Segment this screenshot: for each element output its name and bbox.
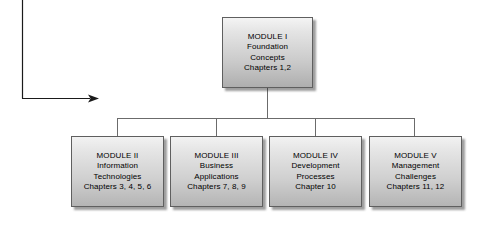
module-box-line-3: Concepts (250, 53, 285, 64)
module-box-line-2: Development (291, 161, 339, 172)
module-box-module-1[interactable]: MODULE I Foundation Concepts Chapters 1,… (222, 17, 313, 88)
module-box-line-chapters: Chapters 11, 12 (387, 182, 445, 193)
module-box-line-title: MODULE III (194, 151, 238, 162)
module-box-line-chapters: Chapter 10 (295, 182, 336, 193)
module-structure-diagram: MODULE I Foundation Concepts Chapters 1,… (0, 0, 486, 226)
module-box-line-2: Information (97, 161, 138, 172)
callout-arrow-head-icon (88, 95, 99, 103)
module-box-line-2: Management (392, 161, 440, 172)
module-box-line-title: MODULE IV (293, 151, 338, 162)
module-box-line-3: Processes (296, 172, 334, 183)
module-box-line-3: Technologies (94, 172, 142, 183)
module-box-line-chapters: Chapters 3, 4, 5, 6 (84, 182, 152, 193)
module-box-module-2[interactable]: MODULE II Information Technologies Chapt… (71, 136, 164, 207)
module-box-module-4[interactable]: MODULE IV Development Processes Chapter … (269, 136, 362, 207)
tree-connectors (117, 88, 415, 136)
module-box-line-title: MODULE V (394, 151, 437, 162)
module-box-line-title: MODULE II (97, 151, 139, 162)
module-box-line-2: Foundation (247, 42, 288, 53)
module-box-line-3: Applications (194, 172, 238, 183)
module-box-line-title: MODULE I (248, 32, 287, 43)
module-box-module-5[interactable]: MODULE V Management Challenges Chapters … (369, 136, 462, 207)
callout-arrow (22, 0, 99, 103)
module-box-line-2: Business (200, 161, 233, 172)
module-box-line-3: Challenges (395, 172, 436, 183)
module-box-line-chapters: Chapters 1,2 (244, 63, 291, 74)
module-box-module-3[interactable]: MODULE III Business Applications Chapter… (170, 136, 263, 207)
module-box-line-chapters: Chapters 7, 8, 9 (187, 182, 246, 193)
